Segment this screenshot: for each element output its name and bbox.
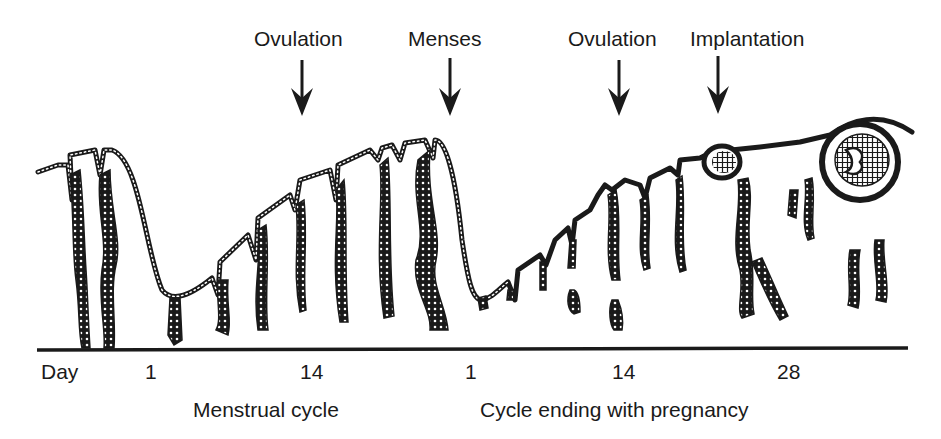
tick-label-cycle2-day28: 28 [777,361,800,382]
arrow-down-icon-implantation [707,56,729,114]
day-axis-line [37,348,908,350]
endometrium-surface [38,119,912,300]
blastocyst-embryo [822,124,898,200]
caption-cycle-ending-with-pregnancy: Cycle ending with pregnancy [480,399,749,420]
tick-label-cycle2-day1: 1 [465,361,477,382]
axis-label-day: Day [41,361,78,382]
tick-label-cycle1-day14: 14 [300,361,323,382]
tick-label-cycle1-day1: 1 [145,361,157,382]
arrow-down-icon-menses [439,58,461,116]
endometrial-glands-cycle-1 [70,150,448,348]
tick-label-cycle2-day14: 14 [612,361,635,382]
arrow-down-icon-ovulation-2 [608,60,630,116]
implantation-site-early [704,146,740,178]
arrow-down-icon-ovulation-1 [291,60,313,116]
caption-menstrual-cycle: Menstrual cycle [193,399,339,420]
